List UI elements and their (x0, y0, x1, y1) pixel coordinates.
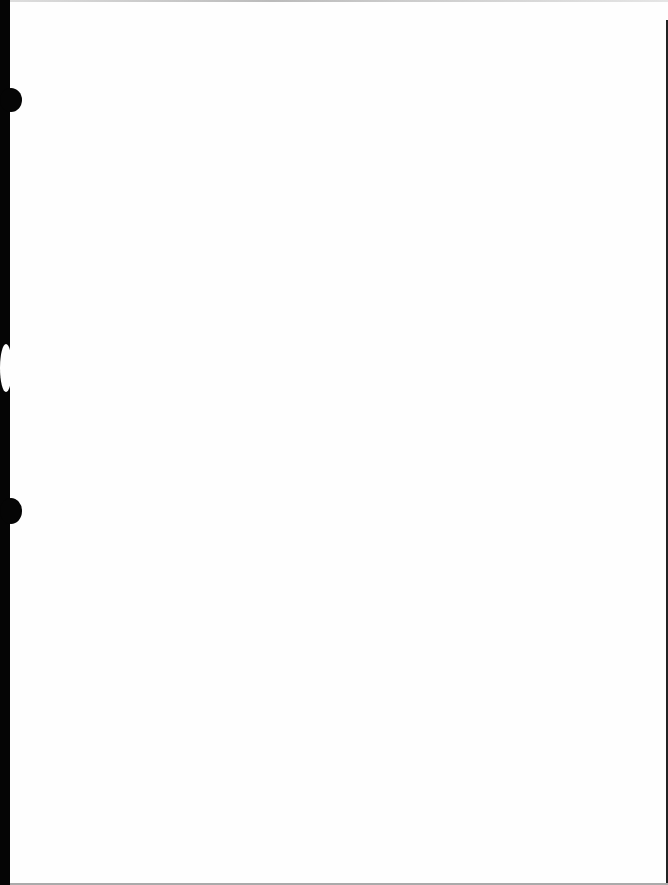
blank-scanned-page (0, 0, 668, 885)
punch-hole-middle (0, 344, 12, 392)
punch-hole-top (0, 88, 22, 112)
punch-hole-bottom (0, 498, 22, 524)
left-scan-margin (0, 0, 10, 885)
top-edge-shadow (10, 0, 668, 2)
